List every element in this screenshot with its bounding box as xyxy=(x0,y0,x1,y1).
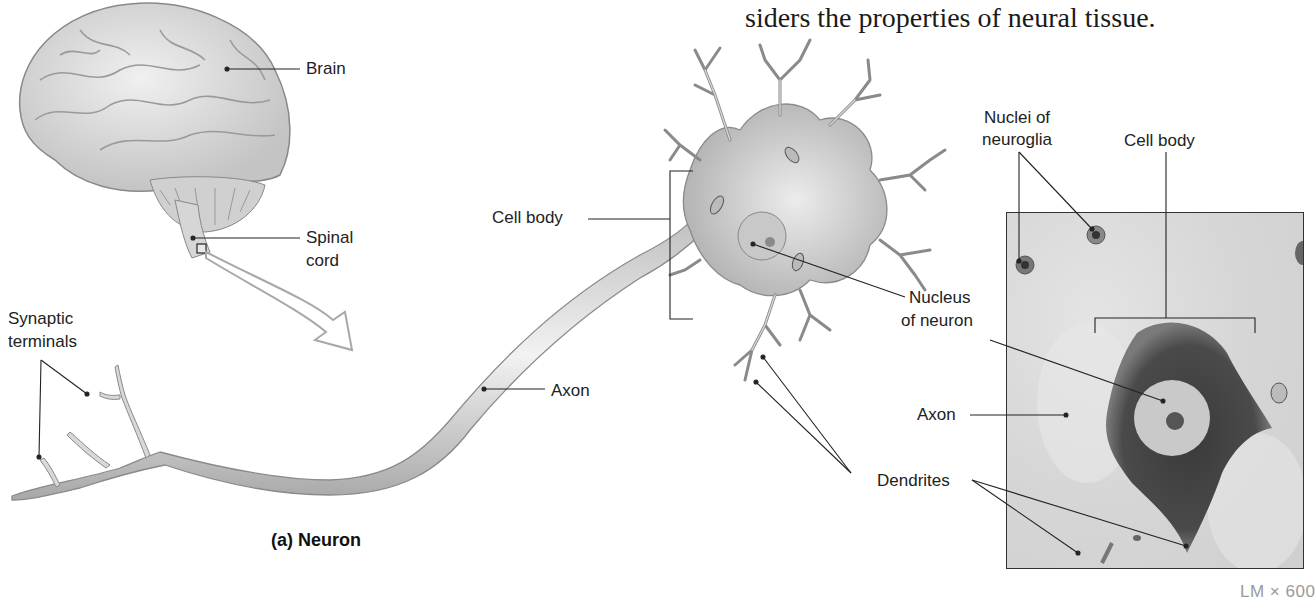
label-axon-micrograph: Axon xyxy=(917,405,956,425)
magnification-label: LM × 600 xyxy=(1240,582,1315,600)
label-spinal-cord-line2: cord xyxy=(306,251,339,271)
label-spinal-cord-line1: Spinal xyxy=(306,228,353,248)
brain-illustration xyxy=(20,3,290,258)
label-cell-body: Cell body xyxy=(492,208,563,228)
label-synaptic-terminals-line2: terminals xyxy=(8,332,77,352)
label-nuclei-of-neuroglia-line2: neuroglia xyxy=(977,130,1057,150)
label-axon: Axon xyxy=(551,381,590,401)
figure-caption: (a) Neuron xyxy=(271,530,361,551)
label-nucleus-line1: Nucleus xyxy=(909,288,970,308)
diagram-canvas xyxy=(0,0,1316,600)
label-cell-body-micrograph: Cell body xyxy=(1124,131,1195,151)
label-nucleus-line2: of neuron xyxy=(901,311,973,331)
enlargement-box xyxy=(197,244,206,253)
label-nuclei-of-neuroglia-line1: Nuclei of xyxy=(977,108,1057,128)
label-brain: Brain xyxy=(306,59,346,79)
label-dendrites: Dendrites xyxy=(877,471,950,491)
label-synaptic-terminals-line1: Synaptic xyxy=(8,309,73,329)
